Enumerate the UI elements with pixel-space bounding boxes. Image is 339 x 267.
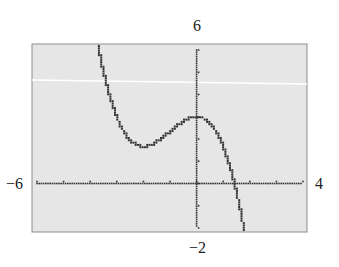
xmin-label: −6 bbox=[6, 176, 23, 192]
graph-window-frame bbox=[32, 44, 307, 232]
xmax-label: 4 bbox=[315, 176, 323, 192]
calculator-graph-screen bbox=[0, 0, 339, 267]
ymin-label: −2 bbox=[189, 240, 206, 256]
ymax-label: 6 bbox=[193, 18, 201, 34]
